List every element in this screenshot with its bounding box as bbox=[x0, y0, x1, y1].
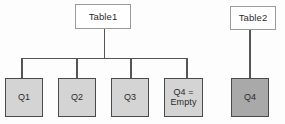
q4-empty-node-label: Q4 = Empty bbox=[170, 88, 196, 107]
q4-node-label: Q4 bbox=[244, 93, 256, 102]
q3-node-label: Q3 bbox=[124, 93, 136, 102]
q3-node[interactable]: Q3 bbox=[111, 78, 149, 117]
connector-drop-q1 bbox=[21, 58, 23, 79]
table2-node[interactable]: Table2 bbox=[230, 6, 276, 30]
q1-node[interactable]: Q1 bbox=[5, 78, 43, 117]
connector-horizontal-bus bbox=[21, 58, 187, 60]
q2-node-label: Q2 bbox=[71, 93, 83, 102]
q4-node[interactable]: Q4 bbox=[231, 78, 269, 117]
connector-drop-q4-empty bbox=[186, 58, 188, 79]
q1-node-label: Q1 bbox=[18, 93, 30, 102]
diagram-canvas: Table1 Q1 Q2 Q3 Q4 = Empty Table2 Q4 bbox=[0, 0, 285, 124]
connector-drop-q3 bbox=[130, 58, 132, 79]
q4-empty-node[interactable]: Q4 = Empty bbox=[164, 78, 203, 117]
table2-node-label: Table2 bbox=[239, 13, 268, 23]
table1-node-label: Table1 bbox=[89, 12, 118, 22]
q2-node[interactable]: Q2 bbox=[58, 78, 96, 117]
connector-table1-trunk bbox=[104, 29, 106, 59]
table1-node[interactable]: Table1 bbox=[75, 4, 131, 29]
connector-drop-q2 bbox=[76, 58, 78, 79]
connector-table2-trunk bbox=[249, 30, 251, 78]
